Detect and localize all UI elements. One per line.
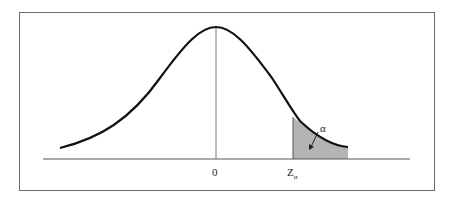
alpha-label: α: [320, 122, 326, 134]
center-label: 0: [212, 166, 218, 178]
normal-curve-plot: [0, 0, 453, 204]
critical-label: Zα: [287, 166, 297, 181]
